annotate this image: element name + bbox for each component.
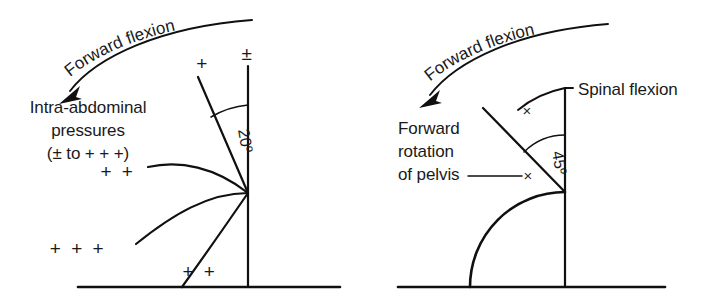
left-forward-flexion-label: Forward flexion	[61, 16, 177, 80]
right-pelvis-arc	[470, 192, 565, 287]
right-body-line-1: Forward	[398, 119, 460, 138]
plus-double-mid-marker: + +	[101, 161, 136, 182]
x-mark-pelvis: ×	[524, 167, 533, 184]
plus-triple-lower-marker: + + +	[50, 238, 106, 259]
plus-minus-top-marker: ±	[242, 43, 255, 64]
left-body-line-1: Intra-abdominal	[30, 98, 147, 117]
left-panel: Forward flexion Intra-abdominal pressure…	[30, 16, 340, 287]
left-angle-label: 20º	[235, 128, 256, 154]
right-body-line-2: rotation	[398, 142, 454, 161]
plus-double-bottom-marker: + +	[183, 261, 218, 282]
right-angle-arc	[524, 135, 565, 152]
right-angle-label: 45º	[549, 150, 570, 176]
right-callout-label: Spinal flexion	[578, 80, 678, 99]
figure-canvas: Forward flexion Intra-abdominal pressure…	[0, 0, 711, 303]
right-body-line-3: of pelvis	[398, 165, 459, 184]
left-angle-arc	[211, 105, 248, 117]
left-flexion-curve-1	[148, 164, 248, 193]
plus-single-upper-marker: +	[196, 53, 210, 74]
right-forward-flexion-arrowhead	[419, 90, 442, 108]
x-mark-spinal: ×	[523, 102, 532, 119]
right-panel: Forward flexion Forward rotation of pelv…	[398, 20, 678, 287]
right-forward-flexion-label: Forward flexion	[421, 20, 536, 85]
anatomical-flexion-diagram: Forward flexion Intra-abdominal pressure…	[0, 0, 711, 303]
left-body-line-2: pressures	[51, 121, 125, 140]
